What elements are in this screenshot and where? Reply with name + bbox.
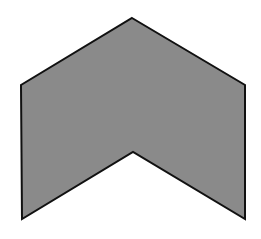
chevron-up-shape [21,18,245,219]
diagram-canvas [0,0,261,239]
chevron-diagram [0,0,261,239]
